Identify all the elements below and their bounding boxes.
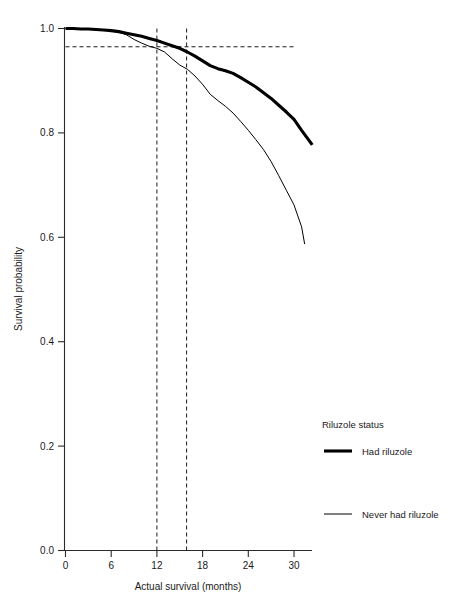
x-tick-label-4: 24 [243, 560, 255, 571]
x-tick-label-5: 30 [288, 560, 300, 571]
x-tick-label-3: 18 [197, 560, 209, 571]
chart-canvas: 0.0 0.2 0.4 0.6 0.8 1.0 0 6 12 18 24 30 … [0, 0, 455, 613]
y-tick-label-1: 0.2 [40, 441, 54, 452]
survival-curve-figure: 0.0 0.2 0.4 0.6 0.8 1.0 0 6 12 18 24 30 … [0, 0, 455, 613]
chart-background [0, 0, 455, 613]
y-tick-label-5: 1.0 [40, 23, 54, 34]
y-axis-title: Survival probability [13, 247, 24, 331]
y-tick-label-2: 0.4 [40, 336, 54, 347]
y-tick-label-3: 0.6 [40, 232, 54, 243]
x-tick-label-2: 12 [151, 560, 163, 571]
x-tick-label-0: 0 [63, 560, 69, 571]
legend-title: Riluzole status [322, 419, 384, 430]
legend-label-had-riluzole: Had riluzole [362, 446, 412, 457]
y-tick-label-4: 0.8 [40, 127, 54, 138]
y-tick-label-0: 0.0 [40, 545, 54, 556]
legend-label-never-had-riluzole: Never had riluzole [362, 509, 439, 520]
x-tick-label-1: 6 [108, 560, 114, 571]
x-axis-title: Actual survival (months) [135, 581, 242, 592]
